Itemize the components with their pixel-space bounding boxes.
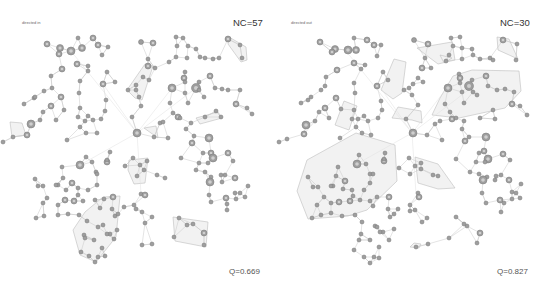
node — [451, 44, 455, 48]
node — [202, 95, 206, 99]
node — [186, 101, 190, 105]
node — [217, 56, 221, 60]
node — [410, 93, 414, 97]
node — [510, 190, 514, 194]
node — [42, 214, 46, 218]
panel-directed-out: directed out NC=30 Q=0.827 — [275, 0, 550, 289]
node — [132, 203, 136, 207]
node-inner — [112, 196, 115, 199]
node — [369, 133, 373, 137]
node — [363, 63, 367, 67]
node — [184, 127, 188, 131]
node — [420, 220, 424, 224]
node — [115, 228, 119, 232]
node — [203, 56, 207, 60]
node-inner — [71, 182, 74, 185]
edge — [155, 62, 169, 68]
node — [503, 87, 507, 91]
node — [62, 108, 66, 112]
node — [123, 164, 127, 168]
node-inner — [76, 63, 79, 66]
node — [61, 176, 65, 180]
node-inner — [335, 97, 338, 100]
node-inner — [211, 156, 215, 160]
node — [87, 254, 91, 258]
node — [36, 184, 40, 188]
node — [371, 172, 375, 176]
node — [152, 135, 156, 139]
node — [460, 90, 464, 94]
node — [375, 54, 379, 58]
node — [106, 45, 110, 49]
node — [381, 70, 385, 74]
node — [194, 47, 198, 51]
node — [78, 125, 82, 129]
network-graph-directed-out — [275, 0, 550, 289]
node-inner — [427, 43, 430, 46]
node-inner — [69, 49, 73, 53]
node — [34, 216, 38, 220]
node — [166, 136, 170, 140]
node — [413, 164, 417, 168]
node — [433, 122, 437, 126]
node — [454, 116, 458, 120]
node — [181, 36, 185, 40]
node — [220, 87, 224, 91]
node-inner — [191, 142, 194, 145]
node — [362, 114, 366, 118]
node — [76, 115, 80, 119]
node — [334, 174, 338, 178]
q-label: Q=0.827 — [497, 267, 528, 276]
node — [86, 69, 90, 73]
node — [76, 193, 80, 197]
node-inner — [485, 75, 488, 78]
node — [436, 174, 440, 178]
node — [408, 203, 412, 207]
node — [386, 78, 390, 82]
node-inner — [73, 200, 76, 203]
node — [468, 170, 472, 174]
node — [134, 207, 138, 211]
node — [438, 119, 442, 123]
node — [150, 215, 154, 219]
node — [83, 119, 87, 123]
node — [203, 115, 207, 119]
node — [96, 255, 100, 259]
node — [103, 254, 107, 258]
node — [95, 183, 99, 187]
node — [458, 81, 462, 85]
node-inner — [499, 199, 502, 202]
node — [211, 57, 215, 61]
node — [116, 212, 120, 216]
node — [201, 151, 205, 155]
node — [113, 80, 117, 84]
node-inner — [446, 86, 450, 90]
node — [419, 161, 423, 165]
node — [377, 245, 381, 249]
node-inner — [376, 85, 379, 88]
node — [153, 66, 157, 70]
node — [454, 215, 458, 219]
node — [161, 120, 165, 124]
node — [135, 174, 139, 178]
node — [387, 238, 391, 242]
q-label: Q=0.669 — [229, 267, 260, 276]
node — [319, 88, 323, 92]
node — [447, 53, 451, 57]
node-inner — [29, 122, 33, 126]
node — [329, 201, 333, 205]
node — [110, 207, 114, 211]
node-inner — [227, 152, 230, 155]
node — [356, 117, 360, 121]
node — [54, 183, 58, 187]
node — [449, 36, 453, 40]
node — [359, 232, 363, 236]
node — [421, 80, 425, 84]
node — [358, 198, 362, 202]
node-inner — [451, 118, 454, 121]
node — [41, 110, 45, 114]
node — [353, 91, 357, 95]
node — [397, 166, 401, 170]
node — [480, 191, 484, 195]
node — [413, 208, 417, 212]
